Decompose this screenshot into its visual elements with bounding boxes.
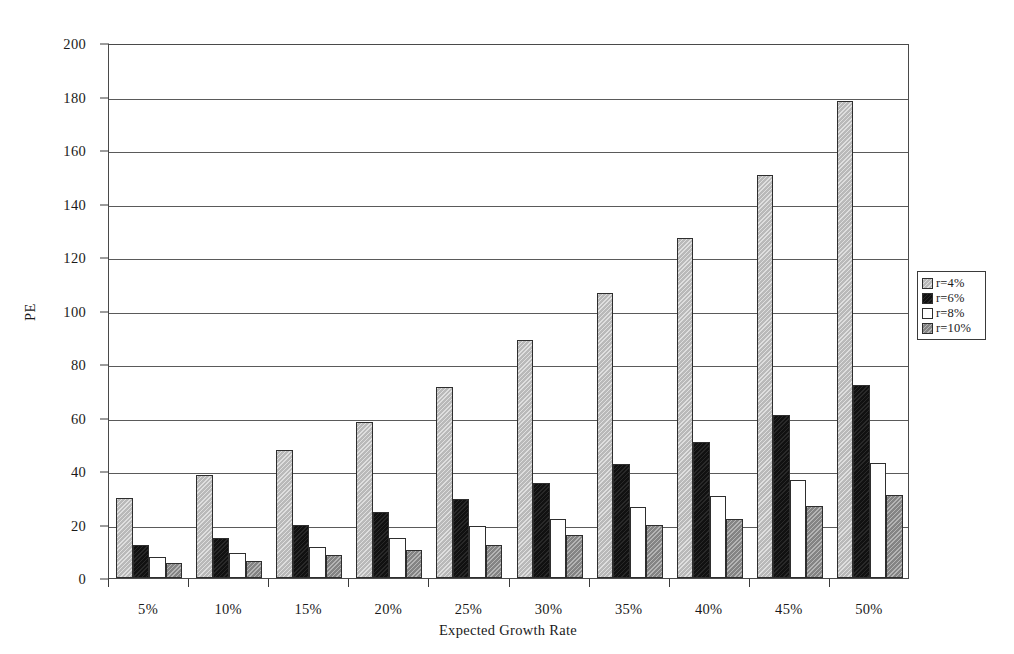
bar-45pct-r8pct [790,480,807,578]
y-tick-label: 120 [63,250,86,267]
legend-swatch-icon [922,323,933,334]
bar-40pct-r8pct [710,496,727,578]
x-tick-label: 35% [615,601,642,618]
x-axis-title: Expected Growth Rate [439,622,577,639]
legend-swatch-icon [922,293,933,304]
bar-15pct-r8pct [309,547,326,578]
x-tick-mark [428,579,429,587]
y-tick-label: 20 [71,517,86,534]
y-tick-mark [100,44,109,45]
y-tick-label: 0 [78,571,86,588]
bar-30pct-r10pct [566,535,583,578]
bar-10pct-r4pct [196,475,213,578]
bar-40pct-r6pct [693,442,710,578]
bar-50pct-r8pct [870,463,887,578]
x-tick-mark [268,579,269,587]
gridline [109,366,908,367]
bar-5pct-r4pct [116,498,133,578]
y-tick-mark [100,418,109,419]
gridline [109,259,908,260]
bar-5pct-r8pct [149,557,166,578]
bar-50pct-r4pct [837,101,854,578]
bar-10pct-r10pct [246,561,263,578]
bar-40pct-r10pct [726,519,743,578]
legend-swatch-icon [922,278,933,289]
bar-45pct-r4pct [757,175,774,578]
legend-item-r4pct: r=4% [922,276,981,290]
bar-15pct-r6pct [293,525,310,579]
y-tick-label: 60 [71,410,86,427]
bar-5pct-r6pct [133,545,150,578]
bar-25pct-r4pct [436,387,453,578]
x-tick-mark [829,579,830,587]
x-tick-mark [749,579,750,587]
bar-30pct-r8pct [550,519,567,578]
bar-20pct-r6pct [373,512,390,578]
bar-50pct-r6pct [853,385,870,578]
bar-35pct-r4pct [597,293,614,578]
y-tick-label: 200 [63,36,86,53]
y-tick-mark [100,258,109,259]
legend-label: r=6% [936,291,965,306]
x-tick-label: 20% [375,601,402,618]
legend-item-r6pct: r=6% [922,291,981,305]
x-tick-label: 15% [295,601,322,618]
x-tick-label: 25% [455,601,482,618]
bar-35pct-r8pct [630,507,647,578]
x-tick-label: 30% [535,601,562,618]
y-tick-mark [100,204,109,205]
y-axis: 020406080100120140160180200 [0,0,108,654]
y-tick-label: 180 [63,89,86,106]
gridline [109,313,908,314]
bar-30pct-r6pct [533,483,550,578]
x-tick-mark [348,579,349,587]
y-tick-mark [100,472,109,473]
x-tick-label: 10% [214,601,241,618]
y-tick-label: 160 [63,143,86,160]
bar-5pct-r10pct [166,563,183,578]
bar-45pct-r6pct [773,415,790,578]
legend: r=4%r=6%r=8%r=10% [917,271,986,340]
y-tick-label: 140 [63,196,86,213]
bar-25pct-r6pct [453,499,470,578]
y-tick-mark [100,311,109,312]
bar-35pct-r6pct [613,464,630,578]
bar-30pct-r4pct [517,340,534,578]
y-tick-label: 40 [71,464,86,481]
y-tick-mark [100,365,109,366]
x-tick-label: 5% [138,601,158,618]
y-tick-mark [100,97,109,98]
gridline [109,99,908,100]
x-tick-mark [509,579,510,587]
gridline [109,206,908,207]
bar-35pct-r10pct [646,525,663,579]
bar-15pct-r4pct [276,450,293,578]
y-tick-label: 80 [71,357,86,374]
bar-20pct-r4pct [356,422,373,578]
bar-25pct-r10pct [486,545,503,578]
bar-20pct-r8pct [389,538,406,578]
plot-area [108,44,909,579]
x-tick-label: 45% [775,601,802,618]
bar-20pct-r10pct [406,550,423,578]
legend-item-r10pct: r=10% [922,321,981,335]
x-tick-mark [589,579,590,587]
gridline [109,152,908,153]
x-tick-label: 40% [695,601,722,618]
y-tick-label: 100 [63,303,86,320]
y-tick-mark [100,151,109,152]
x-tick-mark [188,579,189,587]
bar-50pct-r10pct [886,495,903,578]
bar-10pct-r6pct [213,538,230,578]
legend-swatch-icon [922,308,933,319]
bar-10pct-r8pct [229,553,246,578]
y-tick-mark [100,525,109,526]
legend-item-r8pct: r=8% [922,306,981,320]
legend-label: r=8% [936,306,965,321]
x-tick-mark [108,579,109,587]
bar-45pct-r10pct [806,506,823,578]
legend-label: r=4% [936,276,965,291]
legend-label: r=10% [936,321,971,336]
x-tick-label: 50% [855,601,882,618]
y-axis-title: PE [22,303,39,321]
